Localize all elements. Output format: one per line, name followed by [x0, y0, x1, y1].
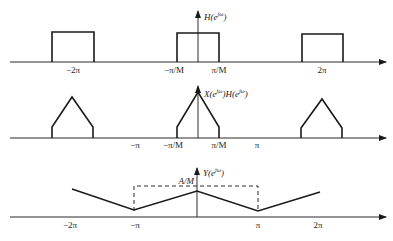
- y-level-dashed-box: [134, 186, 258, 211]
- y-tick-label: π: [256, 220, 261, 230]
- panel-y: Y(ejω) A/M −2π −π π 2π: [10, 167, 386, 230]
- xh-tick-label: π/M: [211, 140, 226, 150]
- xh-tick-label: −π/M: [163, 140, 183, 150]
- h-passband-left: [52, 32, 94, 62]
- y-spectrum: [72, 189, 320, 211]
- xh-tick-label: −π: [130, 140, 140, 150]
- h-tick-label: π/M: [211, 65, 226, 75]
- h-axis-label: H(ejω): [203, 11, 226, 22]
- h-tick-label: −π/M: [164, 65, 184, 75]
- xh-spectrum-right: [301, 99, 342, 138]
- xh-axis-label: X(ejω)H(ejω): [203, 88, 248, 99]
- h-passband-right: [302, 34, 343, 62]
- y-tick-label: −π: [130, 220, 140, 230]
- xh-tick-label: π: [255, 140, 260, 150]
- panel-xh: X(ejω)H(ejω) −π −π/M π/M π: [10, 86, 386, 150]
- y-level-label: A/M: [178, 176, 195, 186]
- xh-spectrum-left: [52, 97, 93, 138]
- h-tick-label: 2π: [317, 65, 327, 75]
- y-tick-label: 2π: [313, 220, 323, 230]
- y-tick-label: −2π: [63, 220, 78, 230]
- y-axis-label: Y(ejω): [203, 167, 224, 178]
- h-tick-label: −2π: [66, 65, 81, 75]
- spectrum-diagram: H(ejω) −2π −π/M π/M 2π X(ejω)H(ejω) −π −…: [0, 0, 393, 241]
- panel-h: H(ejω) −2π −π/M π/M 2π: [10, 11, 386, 75]
